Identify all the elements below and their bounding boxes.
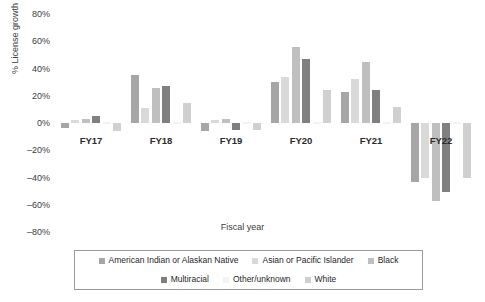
- bar: [292, 47, 300, 123]
- legend-swatch-icon: [368, 258, 374, 264]
- bar-group: FY22: [406, 14, 476, 232]
- bar: [442, 123, 450, 192]
- legend-item[interactable]: Other/unknown: [223, 275, 291, 284]
- bar: [131, 75, 139, 123]
- chart-figure: % License growth 80%60%40%20%0%–20%–40%–…: [0, 0, 485, 302]
- bar: [201, 123, 209, 131]
- legend-swatch-icon: [305, 277, 311, 283]
- bar: [453, 122, 461, 124]
- bar: [71, 120, 79, 123]
- y-tick-label: –40%: [27, 173, 50, 183]
- legend-label: Asian or Pacific Islander: [262, 256, 353, 265]
- plot-area: 80%60%40%20%0%–20%–40%–60%–80% FY17FY18F…: [56, 14, 476, 232]
- legend-swatch-icon: [99, 258, 105, 264]
- bar: [323, 90, 331, 123]
- bar-group: FY20: [266, 14, 336, 232]
- bar: [341, 92, 349, 123]
- bar: [92, 116, 100, 123]
- bar: [243, 122, 251, 124]
- x-tick-label: FY20: [266, 135, 336, 146]
- bar-group-bars: [196, 14, 266, 232]
- x-tick-label: FY18: [126, 135, 196, 146]
- bar: [152, 88, 160, 123]
- bar: [103, 122, 111, 124]
- bar: [141, 108, 149, 123]
- bar-group-bars: [406, 14, 476, 232]
- x-tick-label: FY22: [406, 135, 476, 146]
- bar: [302, 59, 310, 123]
- bar-group: FY21: [336, 14, 406, 232]
- y-tick-label: 60%: [32, 36, 50, 46]
- x-axis-label: Fiscal year: [0, 222, 485, 232]
- legend-label: Other/unknown: [233, 275, 291, 284]
- y-tick-label: –20%: [27, 145, 50, 155]
- bar: [222, 119, 230, 123]
- bar: [281, 77, 289, 123]
- bar: [372, 90, 380, 123]
- y-axis-label: % License growth: [10, 0, 26, 74]
- legend-item[interactable]: American Indian or Alaskan Native: [99, 256, 239, 265]
- y-tick-label: 20%: [32, 91, 50, 101]
- chart-legend: American Indian or Alaskan NativeAsian o…: [74, 250, 423, 290]
- legend-row-1: American Indian or Alaskan NativeAsian o…: [75, 251, 422, 270]
- bar: [232, 123, 240, 130]
- bar: [61, 123, 69, 128]
- bar: [183, 103, 191, 123]
- bar-group-bars: [336, 14, 406, 232]
- x-tick-label: FY17: [56, 135, 126, 146]
- y-tick-label: 0%: [37, 118, 50, 128]
- bar-group-bars: [126, 14, 196, 232]
- bar-group-bars: [56, 14, 126, 232]
- bar: [351, 79, 359, 123]
- bar-group-bars: [266, 14, 336, 232]
- legend-item[interactable]: Black: [368, 256, 399, 265]
- bar: [383, 122, 391, 124]
- legend-row-2: MultiracialOther/unknownWhite: [75, 270, 422, 289]
- bar: [411, 123, 419, 182]
- bar-group: FY17: [56, 14, 126, 232]
- bar: [253, 123, 261, 130]
- bar: [362, 62, 370, 123]
- bar: [162, 86, 170, 123]
- legend-item[interactable]: Multiracial: [161, 275, 209, 284]
- bar: [313, 122, 321, 124]
- bar: [211, 120, 219, 123]
- bar: [113, 123, 121, 131]
- bar: [271, 82, 279, 123]
- bar: [463, 123, 471, 178]
- legend-swatch-icon: [252, 258, 258, 264]
- y-tick-label: –60%: [27, 200, 50, 210]
- bar: [82, 119, 90, 123]
- legend-label: White: [315, 275, 337, 284]
- legend-label: Black: [378, 256, 399, 265]
- legend-item[interactable]: White: [305, 275, 337, 284]
- x-tick-label: FY21: [336, 135, 406, 146]
- bar-group: FY18: [126, 14, 196, 232]
- legend-label: American Indian or Alaskan Native: [109, 256, 239, 265]
- y-tick-label: 40%: [32, 64, 50, 74]
- legend-label: Multiracial: [171, 275, 209, 284]
- y-tick-label: 80%: [32, 9, 50, 19]
- y-axis-label-wrapper: % License growth: [12, 14, 28, 232]
- bar: [393, 107, 401, 123]
- bar-group: FY19: [196, 14, 266, 232]
- bar: [173, 122, 181, 124]
- legend-item[interactable]: Asian or Pacific Islander: [252, 256, 353, 265]
- legend-swatch-icon: [223, 277, 229, 283]
- legend-swatch-icon: [161, 277, 167, 283]
- bar: [421, 123, 429, 178]
- x-tick-label: FY19: [196, 135, 266, 146]
